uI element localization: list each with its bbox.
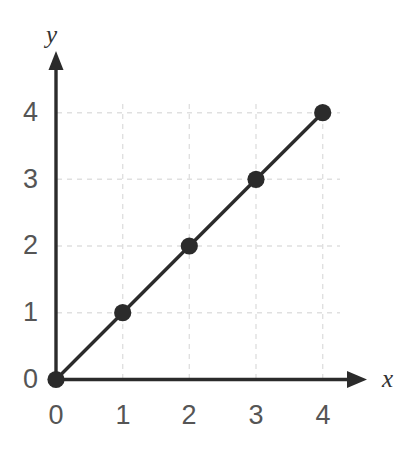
x-tick-label-1: 1 — [106, 402, 140, 429]
y-tick-label-0: 0 — [4, 366, 38, 393]
y-axis-label: y — [46, 22, 57, 47]
data-point-2-2[interactable] — [181, 237, 198, 254]
y-tick-label-3: 3 — [4, 166, 38, 193]
y-tick-label-1: 1 — [4, 299, 38, 326]
x-axis-label: x — [382, 366, 393, 391]
data-point-3-3[interactable] — [247, 171, 264, 188]
gridlines-horizontal — [57, 113, 340, 313]
y-tick-label-2: 2 — [4, 232, 38, 259]
data-point-1-1[interactable] — [114, 304, 131, 321]
x-tick-label-4: 4 — [306, 402, 340, 429]
y-tick-label-4: 4 — [4, 99, 38, 126]
data-point-4-4[interactable] — [314, 104, 331, 121]
x-tick-label-0: 0 — [39, 402, 73, 429]
x-axis-arrowhead — [347, 371, 367, 388]
line-chart-plot — [0, 0, 419, 451]
x-tick-label-2: 2 — [172, 402, 206, 429]
gridlines-vertical — [123, 104, 323, 379]
y-axis-arrowhead — [49, 51, 64, 70]
chart-canvas: 4 3 2 1 0 0 1 2 3 4 y x — [0, 0, 419, 451]
x-tick-label-3: 3 — [239, 402, 273, 429]
data-point-0-0[interactable] — [47, 371, 64, 388]
